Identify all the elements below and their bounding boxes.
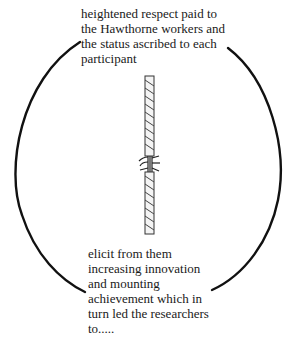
bottom-text-line: to.....	[88, 321, 218, 336]
bottom-text-line: and mounting	[88, 276, 218, 291]
top-text-line: the Hawthorne workers and	[81, 21, 261, 36]
top-text-line: heightened respect paid to	[81, 6, 261, 21]
bottom-text-line: achievement which in	[88, 291, 218, 306]
bottom-text-line: turn led the researchers	[88, 306, 218, 321]
bottom-cycle-text: elicit from them increasing innovation a…	[88, 246, 218, 336]
frayed-rope-icon	[139, 76, 160, 234]
right-cycle-arc	[212, 48, 281, 290]
bottom-text-line: increasing innovation	[88, 261, 218, 276]
left-cycle-arc	[15, 42, 85, 292]
bottom-text-line: elicit from them	[88, 246, 218, 261]
top-cycle-text: heightened respect paid to the Hawthorne…	[81, 6, 261, 66]
top-text-line: participant	[81, 51, 261, 66]
top-text-line: the status ascribed to each	[81, 36, 261, 51]
